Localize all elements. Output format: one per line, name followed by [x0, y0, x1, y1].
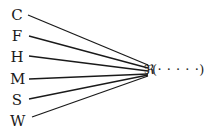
- line-w: [32, 76, 148, 117]
- target-arguments: (· · · · ·): [152, 62, 205, 78]
- diagram: C F H M S W ℜ (· · · · ·): [0, 0, 209, 138]
